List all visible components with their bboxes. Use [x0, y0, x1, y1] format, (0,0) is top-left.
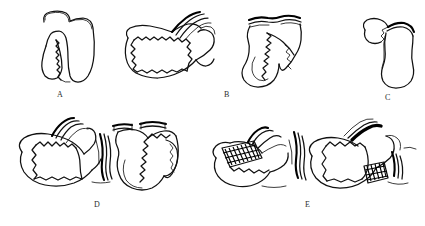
surgical-stages-illustration: [0, 0, 425, 226]
figure-container: A B C D E: [0, 0, 425, 226]
panel-label-e: E: [305, 201, 310, 209]
panel-label-c: C: [385, 94, 390, 102]
panel-label-a: A: [57, 91, 63, 99]
panel-label-d: D: [94, 201, 100, 209]
panel-label-b: B: [224, 91, 229, 99]
